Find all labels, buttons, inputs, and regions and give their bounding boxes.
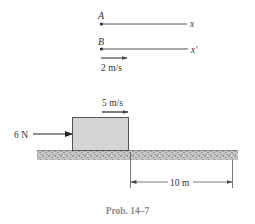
diagram-canvas: A x B x' 2 m/s 5 m/s 6 N 10 m	[0, 0, 255, 224]
frame-velocity-vector: 2 m/s	[101, 58, 127, 73]
block	[73, 118, 129, 151]
applied-force: 6 N	[14, 130, 72, 140]
ground-surface	[37, 150, 238, 160]
reference-line-a: A x	[97, 10, 195, 29]
block-velocity-vector: 5 m/s	[102, 98, 128, 112]
force-label: 6 N	[14, 130, 28, 140]
dimension-label: 10 m	[170, 178, 190, 188]
point-label-a: A	[97, 10, 105, 21]
axis-label-x-prime: x'	[190, 45, 198, 55]
frame-velocity-label: 2 m/s	[101, 63, 122, 73]
figure-caption: Prob. 14–7	[0, 206, 255, 216]
point-label-b: B	[98, 36, 104, 47]
block-velocity-label: 5 m/s	[102, 98, 123, 108]
reference-line-b: B x'	[98, 36, 198, 55]
axis-label-x: x	[189, 19, 195, 29]
